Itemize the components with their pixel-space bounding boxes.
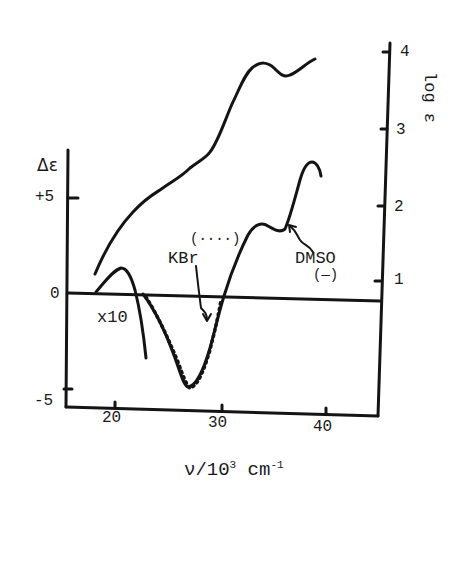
tick-label-zero: 0 [50,286,60,302]
tick-label-x40: 40 [313,419,332,435]
right-y-axis [378,43,390,416]
tick-label-r4: 4 [400,44,410,60]
tick-label-minus5: -5 [34,393,53,409]
tick-label-x20: 20 [102,410,121,426]
x-axis-label-unit: cm [236,459,270,481]
x-axis-label: ν/103 cm-1 [184,460,284,480]
dmso-label: DMSO [295,250,336,267]
dmso-style-label: (—) [313,268,338,282]
tick-label-r2: 2 [394,199,404,215]
x-axis-label-exp2: -1 [270,459,283,471]
kbr-label: KBr [168,250,199,267]
kbr-style-label: (····) [190,232,240,246]
x10-label: x10 [97,309,128,326]
kbr-cd-curve [146,297,221,388]
tick-label-r1: 1 [394,272,404,288]
tick-label-plus5: +5 [35,189,54,205]
kbr-arrow [196,266,207,320]
dmso-cd-curve [143,162,321,387]
left-axis-label: Δε [37,157,58,174]
tick-label-x30: 30 [208,415,227,431]
tick-label-r3: 3 [396,122,406,138]
right-axis-label: log ε [421,72,438,123]
x-axis-label-base: ν/10 [184,459,230,481]
left-y-axis [66,150,68,407]
